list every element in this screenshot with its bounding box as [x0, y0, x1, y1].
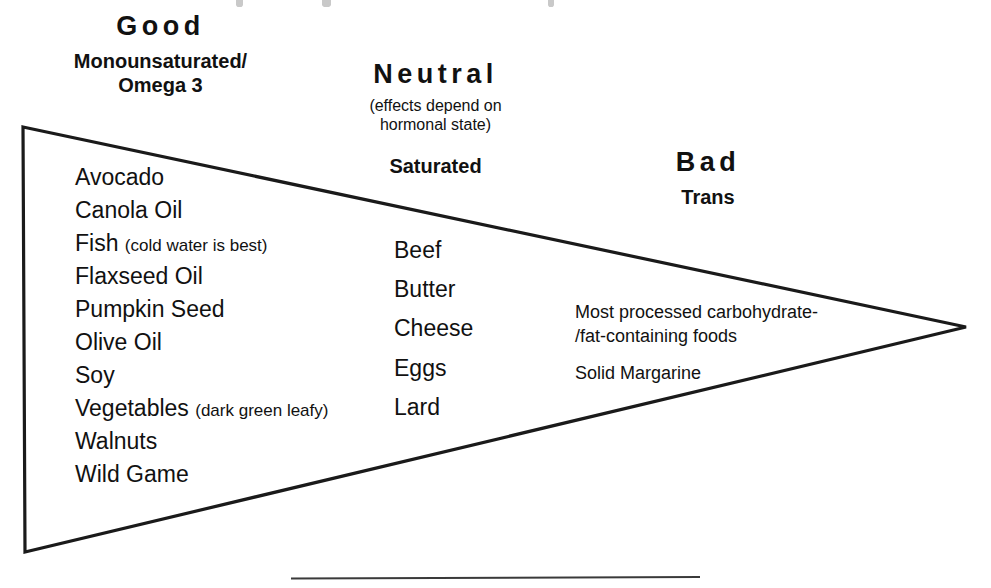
neutral-item: Butter [394, 278, 455, 301]
good-item: Avocado [75, 166, 164, 189]
good-item: Wild Game [75, 463, 189, 486]
good-subheading-line1: Monounsaturated/ [48, 50, 273, 74]
good-item-name: Fish [75, 230, 118, 256]
neutral-item-name: Lard [394, 394, 440, 420]
good-item-name: Pumpkin Seed [75, 296, 225, 322]
good-heading: Good [58, 12, 263, 40]
neutral-item-name: Eggs [394, 355, 446, 381]
good-item-name: Vegetables [75, 395, 189, 421]
good-item: Soy [75, 364, 115, 387]
good-item-name: Wild Game [75, 461, 189, 487]
good-item-name: Canola Oil [75, 197, 182, 223]
good-item: Canola Oil [75, 199, 182, 222]
neutral-item: Lard [394, 396, 440, 419]
neutral-item: Beef [394, 239, 441, 262]
neutral-item-name: Beef [394, 237, 441, 263]
good-item: Flaxseed Oil [75, 265, 203, 288]
baseline-rule [291, 577, 700, 579]
neutral-note-line1: (effects depend on [338, 97, 533, 116]
good-item-name: Avocado [75, 164, 164, 190]
triangle-shape [23, 127, 966, 552]
bad-subheading: Trans [638, 186, 778, 210]
bad-item-line1: Solid Margarine [575, 361, 701, 385]
neutral-item: Cheese [394, 317, 473, 340]
good-item-name: Flaxseed Oil [75, 263, 203, 289]
neutral-item-name: Cheese [394, 315, 473, 341]
bad-item-line2: /fat-containing foods [575, 324, 818, 348]
good-item: Vegetables (dark green leafy) [75, 397, 328, 420]
clipped-text-artifact [236, 0, 243, 7]
good-item: Pumpkin Seed [75, 298, 225, 321]
bad-item: Most processed carbohydrate- /fat-contai… [575, 300, 818, 349]
bad-item: Solid Margarine [575, 361, 701, 385]
neutral-note-line2: hormonal state) [338, 116, 533, 135]
good-item: Walnuts [75, 430, 157, 453]
good-subheading-line2: Omega 3 [48, 74, 273, 98]
neutral-item-name: Butter [394, 276, 455, 302]
good-item-name: Olive Oil [75, 329, 162, 355]
clipped-text-artifact [548, 0, 554, 7]
good-item: Olive Oil [75, 331, 162, 354]
diagram-canvas: Good Monounsaturated/ Omega 3 Avocado Ca… [0, 0, 991, 588]
good-item: Fish (cold water is best) [75, 232, 268, 255]
good-item-qualifier: (cold water is best) [125, 236, 268, 255]
neutral-subheading: Saturated [338, 155, 533, 179]
good-item-qualifier: (dark green leafy) [195, 401, 328, 420]
good-item-name: Walnuts [75, 428, 157, 454]
neutral-item: Eggs [394, 357, 446, 380]
clipped-text-artifact [322, 0, 331, 7]
bad-item-line1: Most processed carbohydrate- [575, 300, 818, 324]
neutral-heading: Neutral [328, 60, 543, 88]
bad-heading: Bad [638, 148, 778, 176]
good-item-name: Soy [75, 362, 115, 388]
